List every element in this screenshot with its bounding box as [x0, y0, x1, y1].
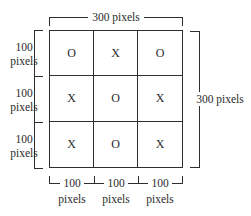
left-label-row-1: 100 pixels [4, 40, 44, 68]
grid-cell: O [94, 76, 138, 121]
grid-cell: X [94, 31, 138, 76]
bottom-label-col-2-unit: pixels [96, 192, 136, 206]
left-label-row-3: 100 pixels [4, 132, 44, 160]
tic-tac-toe-grid: O X O X O X X O X [49, 30, 183, 168]
left-label-row-2: 100 pixels [4, 86, 44, 114]
right-dimension-label: 300 pixels [189, 92, 251, 106]
grid-cell: X [50, 76, 94, 121]
bottom-label-col-2-value: 100 [104, 176, 128, 190]
grid-cell: X [50, 122, 94, 167]
bottom-label-col-3-unit: pixels [140, 192, 180, 206]
bottom-label-col-1-value: 100 [60, 176, 84, 190]
grid-cell: O [94, 122, 138, 167]
bottom-label-col-1-unit: pixels [52, 192, 92, 206]
grid-cell: X [138, 122, 182, 167]
grid-cell: O [50, 31, 94, 76]
bottom-label-col-3-value: 100 [148, 176, 172, 190]
grid-cell: X [138, 76, 182, 121]
grid-cell: O [138, 31, 182, 76]
top-dimension-label: 300 pixels [88, 10, 144, 24]
